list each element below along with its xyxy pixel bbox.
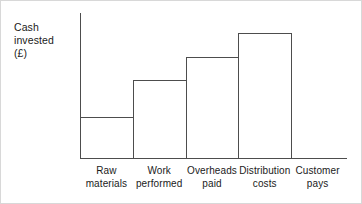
x-axis-tick-1: [80, 154, 81, 159]
x-axis-tick-3: [186, 154, 187, 159]
x-axis-label-2: Work performed: [129, 165, 190, 190]
x-axis-tick-4: [238, 154, 239, 159]
plot-area: Raw materialsWork performedOverheads pai…: [1, 1, 362, 204]
bar-1: [80, 117, 134, 158]
x-axis-label-3: Overheads paid: [182, 165, 243, 190]
x-axis-label-5: Customer pays: [287, 165, 348, 190]
bar-4: [238, 33, 292, 158]
x-axis-label-4: Distribution costs: [234, 165, 295, 190]
bar-3: [186, 57, 240, 158]
x-axis-tick-5: [291, 154, 292, 159]
x-axis-tick-2: [133, 154, 134, 159]
step-chart-figure: Cash invested (£) Raw materialsWork perf…: [0, 0, 362, 204]
bar-2: [133, 80, 187, 158]
x-axis-line: [80, 158, 347, 159]
x-axis-label-1: Raw materials: [76, 165, 137, 190]
